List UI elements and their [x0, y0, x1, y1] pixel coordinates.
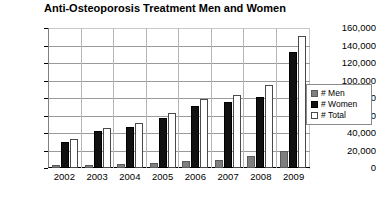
bar-women-2002[interactable]: [61, 142, 69, 168]
bar-women-2003[interactable]: [94, 131, 102, 168]
y-axis-tick-label: 0: [332, 163, 376, 173]
bar-women-2006[interactable]: [191, 106, 199, 168]
bar-group-2006: [179, 28, 212, 168]
legend-swatch-men-icon: [311, 90, 318, 97]
bar-group-2008: [244, 28, 277, 168]
legend-label: # Men: [321, 88, 345, 99]
x-axis-tick-label-2002: 2002: [48, 172, 81, 182]
bar-group-2003: [82, 28, 115, 168]
bar-group-2007: [212, 28, 245, 168]
chart-legend: # Men# Women# Total: [306, 84, 372, 125]
legend-label: # Women: [321, 99, 357, 110]
y-axis-tick-label: 20,000: [332, 146, 376, 156]
legend-item-men[interactable]: # Men: [311, 88, 368, 99]
bar-men-2007[interactable]: [215, 160, 223, 168]
x-axis-tick-label-2006: 2006: [179, 172, 212, 182]
bar-group-2009: [277, 28, 310, 168]
y-axis-tick-label: 160,000: [332, 23, 376, 33]
bar-women-2009[interactable]: [289, 52, 297, 168]
bar-total-2002[interactable]: [70, 139, 78, 168]
bar-women-2008[interactable]: [256, 97, 264, 168]
y-axis-tick-label: 40,000: [332, 128, 376, 138]
bar-total-2003[interactable]: [103, 128, 111, 168]
legend-item-total[interactable]: # Total: [311, 110, 368, 121]
x-axis-tick-label-2003: 2003: [81, 172, 114, 182]
bar-women-2005[interactable]: [159, 118, 167, 168]
bar-men-2004[interactable]: [117, 164, 125, 168]
bar-men-2003[interactable]: [85, 165, 93, 169]
bar-group-2004: [114, 28, 147, 168]
legend-item-women[interactable]: # Women: [311, 99, 368, 110]
legend-swatch-women-icon: [311, 101, 318, 108]
x-axis-tick-label-2007: 2007: [212, 172, 245, 182]
bar-total-2004[interactable]: [135, 123, 143, 168]
x-axis-tick-label-2005: 2005: [146, 172, 179, 182]
bar-men-2008[interactable]: [247, 156, 255, 168]
y-axis-tick-label: 140,000: [332, 41, 376, 51]
y-axis-tick-mark: [44, 168, 48, 169]
x-axis-tick-label-2004: 2004: [114, 172, 147, 182]
bar-men-2005[interactable]: [150, 163, 158, 168]
bar-group-2005: [147, 28, 180, 168]
x-axis-tick-label-2008: 2008: [245, 172, 278, 182]
bar-total-2005[interactable]: [168, 113, 176, 168]
x-axis-tick-label-2009: 2009: [277, 172, 310, 182]
legend-label: # Total: [321, 110, 346, 121]
bar-men-2002[interactable]: [52, 165, 60, 168]
bar-women-2007[interactable]: [224, 102, 232, 168]
bar-men-2006[interactable]: [182, 161, 190, 168]
bar-total-2007[interactable]: [233, 95, 241, 169]
bar-women-2004[interactable]: [126, 127, 134, 168]
bar-men-2009[interactable]: [280, 151, 288, 168]
legend-swatch-total-icon: [311, 112, 318, 119]
bar-chart: Anti-Osteoporosis Treatment Men and Wome…: [0, 0, 376, 200]
bar-total-2009[interactable]: [298, 36, 306, 168]
chart-title: Anti-Osteoporosis Treatment Men and Wome…: [0, 2, 330, 14]
bar-total-2008[interactable]: [265, 85, 273, 168]
bar-group-2002: [49, 28, 82, 168]
bar-total-2006[interactable]: [200, 99, 208, 168]
y-axis-tick-label: 120,000: [332, 58, 376, 68]
bars-layer: [49, 28, 309, 168]
